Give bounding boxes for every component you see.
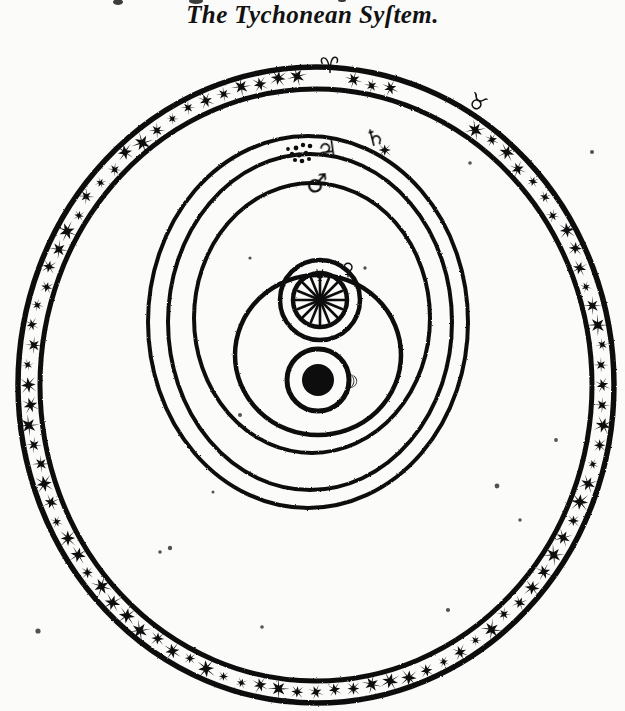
engraving-page: The Tychonean Syſtem. ♈ [0,0,625,711]
page-speck [402,469,406,473]
fixed-star [94,177,106,189]
page-speck [495,484,500,489]
fixed-star [43,494,60,511]
fixed-star [594,439,605,451]
fixed-star [50,515,62,528]
fixed-star [593,357,609,373]
zodiac-signs-group: ♈ ♉ [319,53,491,118]
fixed-star [594,397,611,414]
fixed-star [73,210,84,221]
page-edge-artifact [189,0,203,4]
page-speck [446,608,450,612]
fixed-star [184,653,195,664]
page-speck [260,625,264,629]
fixed-star [20,376,36,393]
fixed-star [587,459,598,471]
fixed-star [347,682,359,695]
fixed-star [21,358,34,371]
mars-glyph: ♂ [304,168,329,199]
fixed-star [35,474,53,493]
page-speck [35,628,40,633]
moon-glyph: ☽ [341,370,358,392]
fixed-star [364,78,380,94]
fixed-star [469,634,482,647]
fixed-star [82,567,93,579]
page-speck [248,256,251,259]
earth-body [302,364,334,396]
fixed-star [595,338,609,352]
fixed-star [308,684,324,700]
page-speck [554,438,558,442]
fixed-star [166,112,179,125]
page-speck [212,491,215,494]
fixed-star [219,672,229,681]
fixed-star [291,686,304,698]
fixed-star [252,677,268,693]
fixed-star [538,191,551,204]
jupiter-glyph: ♃ [315,135,339,164]
tychonean-system-diagram: ♈ ♉ ♄ ♃ [0,0,625,711]
fixed-star [252,76,268,92]
sun-disk [314,294,326,306]
page-speck [363,266,366,269]
fixed-star [22,396,40,415]
page-speck [158,550,162,554]
page-speck [168,546,172,550]
fixed-star [580,281,592,293]
page-edge-artifact [338,0,346,2]
sun-body [296,276,344,324]
star-near-saturn [379,144,391,155]
fixed-star [215,86,231,102]
earth-disk [302,364,334,396]
fixed-star [235,677,247,689]
fixed-star [60,530,75,546]
fixed-star [31,298,44,312]
page-edge-artifact [113,0,123,5]
page-speck [602,298,605,301]
zodiac-sign-aries: ♈ [319,53,340,79]
moon-marker: ☽ [341,370,358,392]
page-speck [238,413,242,417]
fixed-star [438,656,449,668]
fixed-star [382,80,398,97]
fixed-star [595,377,610,393]
fixed-star [25,436,42,454]
venus-glyph: ♀ [342,259,354,279]
page-speck [95,207,98,210]
fixed-star [568,515,580,526]
fixed-star [328,682,342,697]
page-speck [283,698,287,702]
page-speck [468,161,472,165]
page-speck [518,518,521,521]
fixed-star [25,318,39,332]
fixed-star [527,176,539,188]
page-speck [590,150,594,154]
